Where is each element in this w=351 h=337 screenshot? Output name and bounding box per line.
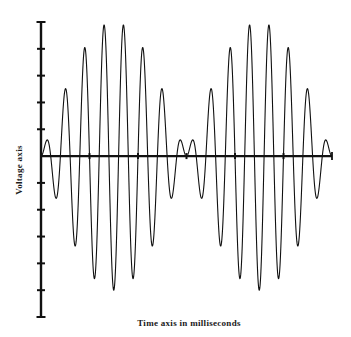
chart: Voltage axis Time axis in milliseconds bbox=[0, 0, 351, 337]
y-axis-label: Voltage axis bbox=[14, 145, 24, 195]
x-axis-label: Time axis in milliseconds bbox=[137, 318, 241, 328]
